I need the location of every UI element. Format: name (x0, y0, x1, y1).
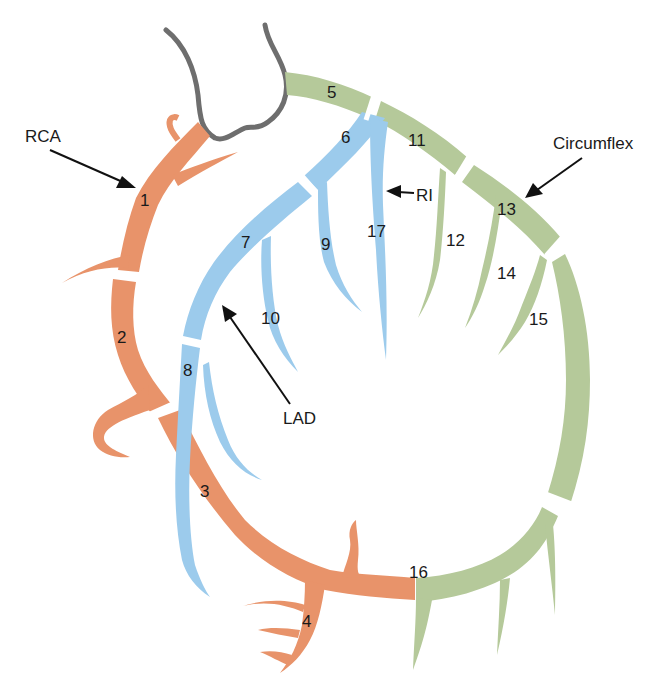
rca-branch-posterior-upward (342, 520, 362, 578)
rca-seg4-branch-1 (240, 601, 305, 612)
rca-label: RCA (25, 127, 62, 146)
segment-label-1: 1 (140, 191, 149, 210)
segment-label-13: 13 (497, 200, 516, 219)
segment-label-7: 7 (241, 233, 250, 252)
circumflex-branch-lower-left (413, 598, 432, 670)
lad-segment-10 (261, 236, 298, 372)
circumflex-segment-right-arc (547, 254, 590, 505)
lad-arrow-head (222, 305, 237, 322)
lad-arrow-line (230, 317, 290, 404)
segment-label-12: 12 (446, 231, 465, 250)
rca-tree (62, 117, 415, 673)
segment-label-10: 10 (261, 309, 280, 328)
rca-branch-acute-marginal (93, 385, 150, 457)
segment-label-9: 9 (321, 235, 330, 254)
segment-label-6: 6 (341, 128, 350, 147)
aortic-root-outline (166, 25, 286, 139)
segment-label-3: 3 (200, 482, 209, 501)
segment-label-11: 11 (408, 131, 426, 150)
circumflex-label: Circumflex (553, 134, 634, 153)
segment-label-2: 2 (117, 328, 126, 347)
rca-arrow-line (50, 150, 125, 183)
rca-arrow-head (116, 176, 136, 188)
rca-seg4-branch-3 (260, 651, 292, 665)
segment-label-17: 17 (367, 222, 386, 241)
circumflex-arrow-line (537, 158, 582, 190)
ri-label: RI (416, 186, 433, 205)
ri-arrow-head (386, 185, 401, 198)
circumflex-segment-lower-arc (416, 507, 558, 602)
lad-segment-7 (183, 182, 312, 340)
circumflex-arrow-head (525, 183, 543, 198)
rca-seg4-branch-2 (258, 628, 300, 638)
segment-label-14: 14 (497, 264, 516, 283)
lad-branch-diagonal-lower (203, 362, 262, 480)
segment-label-4: 4 (302, 612, 311, 631)
segment-label-15: 15 (529, 310, 548, 329)
segment-label-5: 5 (327, 83, 336, 102)
lad-label: LAD (283, 409, 316, 428)
coronary-diagram: 1 2 3 4 5 6 7 8 9 10 11 12 13 14 15 16 1… (0, 0, 669, 694)
segment-label-16: 16 (409, 563, 428, 582)
circumflex-branch-lower-right (545, 515, 555, 615)
circumflex-branch-lower-middle (497, 578, 510, 655)
segment-label-8: 8 (183, 361, 192, 380)
rca-segment-1 (118, 122, 210, 272)
rca-conus-branch (169, 117, 178, 140)
